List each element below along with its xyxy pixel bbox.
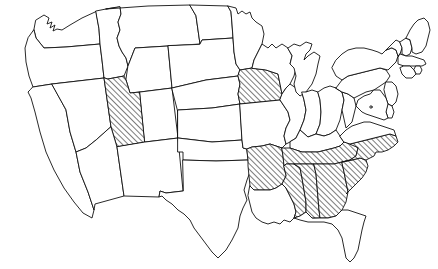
state-CT[interactable]: Connecticut bbox=[400, 66, 416, 78]
state-KS[interactable]: Kansas bbox=[178, 104, 242, 142]
state-CO[interactable]: Colorado bbox=[140, 88, 178, 142]
states-layer: Washington Oregon California Nevada Idah… bbox=[25, 5, 430, 262]
state-MA[interactable]: Massachusetts bbox=[398, 54, 426, 66]
state-AR[interactable]: Arkansas bbox=[247, 144, 286, 190]
us-states-map-svg: Washington Oregon California Nevada Idah… bbox=[0, 0, 438, 269]
state-WY[interactable]: Wyoming bbox=[126, 46, 172, 93]
state-MO[interactable]: Missouri bbox=[240, 100, 290, 149]
state-WA[interactable]: Washington bbox=[34, 11, 100, 48]
us-map-figure: Washington Oregon California Nevada Idah… bbox=[0, 0, 438, 269]
state-NM[interactable]: New Mexico bbox=[117, 138, 183, 197]
state-DC[interactable]: District of Columbia bbox=[370, 106, 372, 108]
state-FL[interactable]: Florida bbox=[294, 210, 366, 262]
